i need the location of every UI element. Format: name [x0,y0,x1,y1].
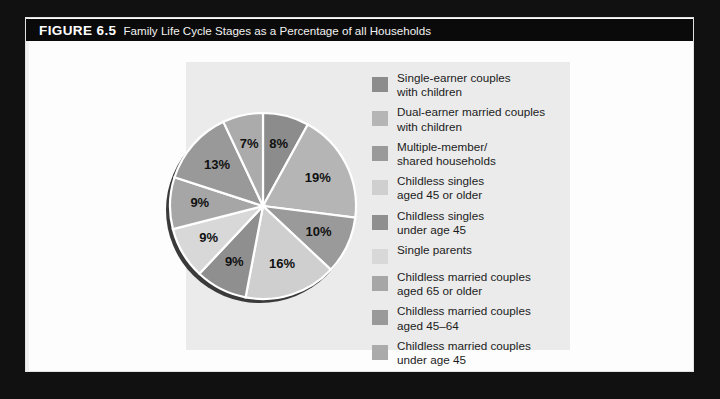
pie-slice-label: 8% [269,136,288,151]
legend-item-label: Childless married couples aged 65 or old… [397,269,531,298]
legend-swatch [372,249,388,264]
legend-swatch [372,77,388,92]
legend-item-label: Childless singles under age 45 [397,208,484,237]
legend-item: Childless married couples under age 45 [372,338,562,367]
legend-swatch [372,276,388,291]
legend-item-label: Childless married couples under age 45 [397,338,531,367]
legend-swatch [372,180,388,195]
legend-item: Childless married couples aged 45–64 [372,303,562,332]
pie-slice-label: 16% [269,256,295,271]
legend-swatch [372,215,388,230]
legend-item: Childless singles under age 45 [372,208,562,237]
figure-root: FIGURE 6.5 Family Life Cycle Stages as a… [0,0,720,399]
legend-swatch [372,146,388,161]
pie-slice-label: 10% [306,224,332,239]
legend-item: Childless singles aged 45 or older [372,173,562,202]
legend-item-label: Single-earner couples with children [397,70,511,99]
figure-caption: Family Life Cycle Stages as a Percentage… [124,24,431,37]
pie-slice-label: 9% [225,254,244,269]
legend-swatch [372,310,388,325]
legend-swatch [372,345,388,360]
legend-item: Single parents [372,242,562,264]
legend-item-label: Childless singles aged 45 or older [397,173,484,202]
legend-item: Single-earner couples with children [372,70,562,99]
pie-slice-label: 19% [305,170,331,185]
chart-legend: Single-earner couples with childrenDual-… [372,70,562,372]
pie-chart: 8%19%10%16%9%9%9%13%7% [150,98,375,318]
figure-number: FIGURE 6.5 [39,23,117,38]
pie-slice-label: 9% [199,230,218,245]
legend-item-label: Dual-earner married couples with childre… [397,104,545,133]
pie-slice-label: 7% [240,136,259,151]
legend-item: Childless married couples aged 65 or old… [372,269,562,298]
pie-slice-label: 13% [204,157,230,172]
legend-item-label: Multiple-member/ shared households [397,139,496,168]
page-left-edge-rule [26,18,29,371]
legend-item: Dual-earner married couples with childre… [372,104,562,133]
pie-chart-svg: 8%19%10%16%9%9%9%13%7% [150,98,375,318]
legend-swatch [372,111,388,126]
figure-title-bar: FIGURE 6.5 Family Life Cycle Stages as a… [26,19,693,41]
legend-item-label: Childless married couples aged 45–64 [397,303,531,332]
legend-item: Multiple-member/ shared households [372,139,562,168]
legend-item-label: Single parents [397,242,472,257]
pie-slice-label: 9% [190,195,209,210]
